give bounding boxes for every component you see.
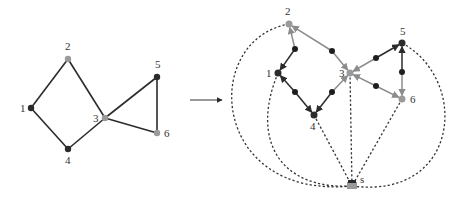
source-node xyxy=(347,182,357,189)
graph-arc xyxy=(292,26,332,51)
graph-node xyxy=(102,115,108,121)
graph-arc xyxy=(353,58,376,71)
graph-node xyxy=(347,70,354,77)
node-label: 4 xyxy=(65,154,71,166)
graph-arc xyxy=(290,27,295,49)
right-graph: 123456s xyxy=(232,5,445,189)
graph-edge xyxy=(31,108,68,149)
dashed-link xyxy=(350,73,352,186)
node-label: 5 xyxy=(400,25,406,37)
graph-arc xyxy=(280,76,295,92)
graph-arc xyxy=(280,49,295,70)
node-label: s xyxy=(360,173,364,185)
edge-midpoint-node xyxy=(399,69,405,75)
graph-arc xyxy=(376,45,399,58)
graph-edge xyxy=(68,59,105,118)
graph-arc xyxy=(316,92,332,112)
dashed-link xyxy=(232,24,352,187)
graph-edge xyxy=(31,59,68,108)
graph-node xyxy=(311,112,318,119)
graph-node xyxy=(286,21,293,28)
graph-edge xyxy=(105,77,157,118)
diagram-canvas: 123456 123456s xyxy=(0,0,467,204)
graph-node xyxy=(154,74,160,80)
node-label: 3 xyxy=(339,67,345,79)
edge-midpoint-node xyxy=(292,89,298,95)
graph-node xyxy=(275,70,282,77)
edge-midpoint-node xyxy=(329,48,335,54)
graph-arc xyxy=(295,92,312,112)
left-graph: 123456 xyxy=(20,40,170,166)
node-label: 4 xyxy=(310,120,316,132)
node-label: 3 xyxy=(93,112,99,124)
node-label: 2 xyxy=(65,40,71,52)
node-label: 6 xyxy=(410,93,416,105)
dashed-link xyxy=(314,115,352,186)
node-label: 1 xyxy=(266,67,272,79)
node-label: 2 xyxy=(285,5,291,17)
graph-arc xyxy=(376,86,399,97)
node-label: 6 xyxy=(164,127,170,139)
graph-node xyxy=(399,40,406,47)
edge-midpoint-node xyxy=(329,89,335,95)
graph-node xyxy=(65,146,71,152)
edge-midpoint-node xyxy=(373,83,379,89)
graph-edge xyxy=(68,118,105,149)
node-label: 1 xyxy=(20,102,26,114)
graph-arc xyxy=(353,75,376,86)
edge-midpoint-node xyxy=(292,46,298,52)
graph-node xyxy=(154,130,160,136)
edge-midpoint-node xyxy=(373,55,379,61)
graph-node xyxy=(28,105,34,111)
graph-node xyxy=(65,56,71,62)
graph-node xyxy=(399,96,406,103)
node-label: 5 xyxy=(155,58,161,70)
graph-edge xyxy=(105,118,157,133)
